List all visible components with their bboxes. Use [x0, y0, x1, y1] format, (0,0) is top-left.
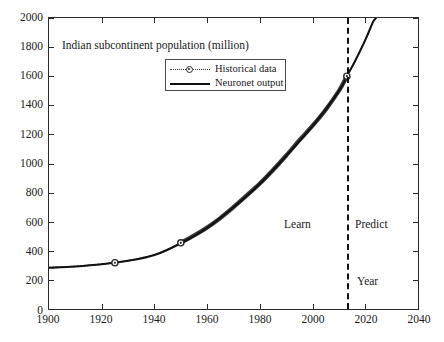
- y-tick-label: 400: [0, 246, 43, 257]
- y-tick-label: 800: [0, 187, 43, 198]
- solid-line-icon: [170, 78, 210, 90]
- y-tick-label: 1800: [0, 41, 43, 52]
- x-tick-label: 2040: [396, 314, 442, 325]
- y-tick-label: 1400: [0, 99, 43, 110]
- x-tick-label: 1940: [131, 314, 177, 325]
- y-tick-label: 600: [0, 217, 43, 228]
- y-tick-label: 2000: [0, 12, 43, 23]
- legend-label: Neuronet output: [215, 78, 284, 89]
- chart-legend: Historical data Neuronet output: [165, 59, 286, 91]
- population-forecast-chart: 2000 1800 1600 1400 1200 1000 800 600 40…: [0, 0, 444, 342]
- y-tick-label: 1200: [0, 129, 43, 140]
- circle-marker-icon: [170, 64, 210, 76]
- y-tick-label: 200: [0, 275, 43, 286]
- annotation-year-axis-label: Year: [357, 275, 378, 287]
- learn-predict-divider: [347, 18, 349, 309]
- x-tick-label: 1980: [237, 314, 283, 325]
- x-tick-label: 2000: [290, 314, 336, 325]
- x-tick-label: 1960: [184, 314, 230, 325]
- chart-title: Indian subcontinent population (million): [62, 39, 249, 51]
- x-tick-label: 1900: [25, 314, 71, 325]
- historical-data-marker-center: [180, 242, 182, 244]
- y-tick-label: 1000: [0, 158, 43, 169]
- annotation-predict: Predict: [355, 218, 388, 230]
- annotation-learn: Learn: [284, 218, 311, 230]
- y-tick-label: 1600: [0, 70, 43, 81]
- legend-entry-historical: Historical data: [170, 63, 281, 76]
- x-tick-label: 2020: [343, 314, 389, 325]
- historical-marker-group: [112, 73, 350, 266]
- series-historical-data: [49, 76, 347, 267]
- historical-data-marker-center: [114, 262, 116, 264]
- series-historical-marker-band: [181, 76, 347, 243]
- series-neuronet-output: [49, 18, 378, 268]
- legend-entry-neuronet: Neuronet output: [170, 77, 281, 90]
- legend-label: Historical data: [215, 64, 277, 75]
- x-tick-label: 1920: [78, 314, 124, 325]
